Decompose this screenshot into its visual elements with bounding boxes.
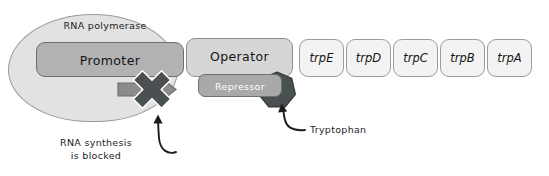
rna-synthesis-blocked-annotation: RNA synthesis is blocked — [40, 137, 152, 162]
gene-label: trpE — [300, 51, 343, 65]
annotation-line-2: is blocked — [40, 150, 152, 163]
gene-box-trpa: trpA — [487, 39, 532, 77]
gene-strip: trpE trpD trpC trpB trpA — [299, 39, 532, 77]
gene-label: trpB — [441, 51, 484, 65]
blocked-callout-arrowhead-icon — [153, 115, 162, 124]
gene-label: trpA — [488, 51, 531, 65]
gene-box-trpc: trpC — [393, 39, 438, 77]
tryptophan-annotation: Tryptophan — [310, 124, 366, 137]
gene-label: trpD — [347, 51, 390, 65]
trp-operon-diagram: RNA polymerase Promoter Operator Repress… — [0, 0, 549, 176]
gene-box-trpd: trpD — [346, 39, 391, 77]
blocked-callout-arrow-icon — [158, 121, 176, 153]
annotation-line-1: RNA synthesis — [40, 137, 152, 150]
repressor-box: Repressor — [198, 74, 282, 97]
gene-label: trpC — [394, 51, 437, 65]
gene-box-trpe: trpE — [299, 39, 344, 77]
tryptophan-callout-arrow-icon — [283, 110, 305, 130]
gene-box-trpb: trpB — [440, 39, 485, 77]
repressor-label: Repressor — [199, 80, 281, 91]
